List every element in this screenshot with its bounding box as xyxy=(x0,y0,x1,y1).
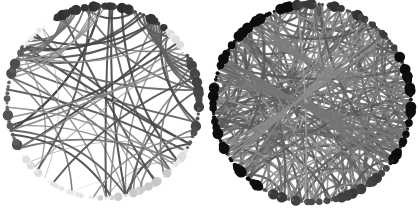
graph-node[interactable] xyxy=(98,195,103,200)
graph-node[interactable] xyxy=(81,4,89,12)
graph-node[interactable] xyxy=(43,177,46,180)
graph-node[interactable] xyxy=(48,21,51,24)
graph-node[interactable] xyxy=(34,32,37,35)
graph-node[interactable] xyxy=(156,21,160,25)
graph-node[interactable] xyxy=(316,199,322,205)
graph-node[interactable] xyxy=(66,190,69,193)
network-panel-left[interactable] xyxy=(0,0,206,208)
graph-node[interactable] xyxy=(25,41,30,46)
graph-node[interactable] xyxy=(4,95,11,102)
graph-node[interactable] xyxy=(273,10,276,13)
graph-node[interactable] xyxy=(212,115,216,119)
graph-node[interactable] xyxy=(304,200,307,203)
graph-node[interactable] xyxy=(12,139,19,146)
graph-node[interactable] xyxy=(214,78,218,82)
graph-node[interactable] xyxy=(215,76,218,79)
graph-node[interactable] xyxy=(213,83,216,86)
graph-node[interactable] xyxy=(11,133,15,137)
graph-node[interactable] xyxy=(71,5,81,15)
graph-node[interactable] xyxy=(128,193,131,196)
graph-node[interactable] xyxy=(7,120,11,124)
graph-node[interactable] xyxy=(228,157,232,161)
graph-node[interactable] xyxy=(75,192,80,197)
graph-node[interactable] xyxy=(394,52,405,63)
graph-node[interactable] xyxy=(323,199,326,202)
graph-node[interactable] xyxy=(105,197,108,200)
graph-node[interactable] xyxy=(406,123,410,127)
graph-node[interactable] xyxy=(50,20,53,23)
graph-node[interactable] xyxy=(263,188,267,192)
graph-node[interactable] xyxy=(267,11,271,15)
graph-node[interactable] xyxy=(408,116,412,120)
graph-node[interactable] xyxy=(399,145,402,148)
graph-node[interactable] xyxy=(268,189,279,200)
graph-node[interactable] xyxy=(35,170,38,173)
graph-node[interactable] xyxy=(22,155,30,163)
graph-node[interactable] xyxy=(43,25,46,28)
graph-node[interactable] xyxy=(3,110,13,120)
graph-node[interactable] xyxy=(287,198,290,201)
graph-node[interactable] xyxy=(195,95,202,102)
graph-node[interactable] xyxy=(124,194,127,197)
graph-node[interactable] xyxy=(330,199,333,202)
graph-node[interactable] xyxy=(50,181,55,186)
graph-node[interactable] xyxy=(172,166,175,169)
graph-node[interactable] xyxy=(191,135,195,139)
graph-node[interactable] xyxy=(163,175,166,178)
graph-node[interactable] xyxy=(197,107,201,111)
graph-node[interactable] xyxy=(313,2,316,5)
figure-container xyxy=(0,0,418,208)
graph-node[interactable] xyxy=(22,154,25,157)
graph-node[interactable] xyxy=(89,196,92,199)
graph-node[interactable] xyxy=(19,150,22,153)
graph-node[interactable] xyxy=(365,19,368,22)
graph-node[interactable] xyxy=(139,12,142,15)
graph-node[interactable] xyxy=(34,169,42,177)
graph-node[interactable] xyxy=(374,26,378,30)
graph-node[interactable] xyxy=(114,192,123,201)
graph-node[interactable] xyxy=(196,116,200,120)
graph-node[interactable] xyxy=(16,57,19,60)
right-network-svg xyxy=(206,0,418,208)
graph-node[interactable] xyxy=(7,85,10,88)
graph-node[interactable] xyxy=(268,191,271,194)
graph-node[interactable] xyxy=(134,10,137,13)
graph-node[interactable] xyxy=(333,196,340,203)
graph-node[interactable] xyxy=(348,10,351,13)
graph-node[interactable] xyxy=(233,163,237,167)
graph-node[interactable] xyxy=(406,127,409,130)
graph-node[interactable] xyxy=(219,142,226,149)
graph-node[interactable] xyxy=(109,196,112,199)
graph-node[interactable] xyxy=(6,102,9,105)
graph-node[interactable] xyxy=(23,45,26,48)
graph-node[interactable] xyxy=(123,4,133,14)
network-panel-right[interactable] xyxy=(206,0,418,208)
graph-node[interactable] xyxy=(181,47,184,50)
graph-node[interactable] xyxy=(12,136,15,139)
graph-node[interactable] xyxy=(216,71,220,75)
left-network-svg xyxy=(0,0,206,208)
graph-node[interactable] xyxy=(92,196,95,199)
graph-node[interactable] xyxy=(409,98,413,102)
graph-node[interactable] xyxy=(96,197,99,200)
graph-node[interactable] xyxy=(5,91,9,95)
graph-node[interactable] xyxy=(7,81,11,85)
graph-node[interactable] xyxy=(197,112,200,115)
graph-node[interactable] xyxy=(321,3,324,6)
graph-node[interactable] xyxy=(10,58,20,68)
graph-node[interactable] xyxy=(6,106,9,109)
graph-node[interactable] xyxy=(31,35,34,38)
graph-node[interactable] xyxy=(291,199,294,202)
graph-node[interactable] xyxy=(246,176,250,180)
left-network-nodes xyxy=(3,1,204,201)
graph-node[interactable] xyxy=(409,93,413,97)
graph-node[interactable] xyxy=(394,49,397,52)
graph-node[interactable] xyxy=(188,142,192,146)
graph-node[interactable] xyxy=(317,2,321,6)
graph-node[interactable] xyxy=(338,5,345,12)
graph-node[interactable] xyxy=(142,13,145,16)
graph-node[interactable] xyxy=(183,50,186,53)
graph-node[interactable] xyxy=(36,28,41,33)
graph-node[interactable] xyxy=(389,161,393,165)
graph-node[interactable] xyxy=(47,180,50,183)
